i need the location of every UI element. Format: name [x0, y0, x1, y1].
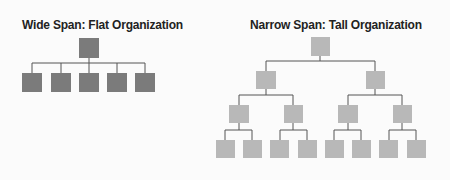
- tall-org-level4-box: [407, 140, 426, 158]
- flat-org-subordinate-box: [107, 73, 127, 92]
- tall-org-level4-box: [379, 140, 398, 158]
- tall-org-level4-box: [325, 140, 344, 158]
- tall-org-level2-box: [366, 71, 385, 89]
- tall-org-level3-box: [393, 105, 412, 123]
- tall-org-level4-box: [243, 140, 262, 158]
- tall-org-top-box: [311, 37, 330, 56]
- flat-org-subordinate-box: [22, 73, 42, 92]
- tall-org-level4-box: [298, 140, 317, 158]
- tall-org-level4-box: [216, 140, 235, 158]
- tall-org-level4-box: [270, 140, 289, 158]
- flat-org-subordinate-box: [51, 73, 71, 92]
- tall-org-chart: [216, 37, 426, 158]
- tall-org-level3-box: [229, 105, 249, 123]
- tall-org-level3-box: [284, 105, 303, 123]
- flat-org-subordinate-box: [79, 73, 99, 92]
- tall-org-level2-box: [256, 71, 276, 89]
- flat-org-manager-box: [79, 38, 99, 58]
- org-charts: [0, 0, 450, 180]
- flat-org-chart: [22, 38, 155, 92]
- flat-org-subordinate-box: [135, 73, 155, 92]
- tall-org-level4-box: [352, 140, 371, 158]
- tall-org-level3-box: [338, 105, 358, 123]
